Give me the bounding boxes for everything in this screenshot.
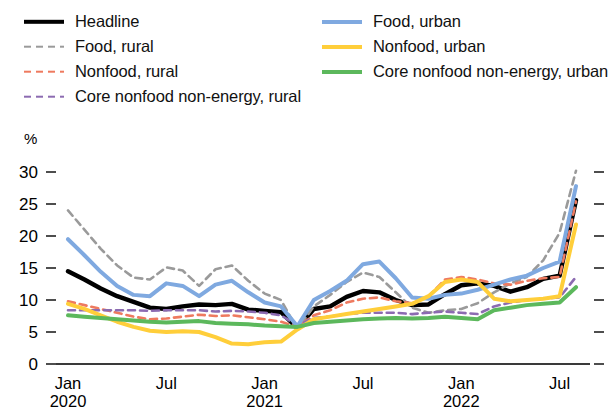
x-axis-tick-month: Jan [55,374,82,392]
plot-area: % 302520151050 Jan2020JulJan2021JulJan20… [0,112,608,417]
legend-entry: Nonfood, rural [24,60,324,83]
x-axis-tick-month: Jul [549,374,570,392]
x-axis-tick-label: Jul [549,374,570,392]
legend-entry: Food, urban [322,10,608,33]
chart-legend: HeadlineFood, ruralNonfood, ruralCore no… [0,0,608,112]
y-axis-tick-label: 0 [4,356,38,373]
legend-entry-label: Nonfood, urban [373,38,485,55]
legend-entry-label: Nonfood, rural [75,63,178,80]
legend-column-left: HeadlineFood, ruralNonfood, ruralCore no… [24,10,324,110]
legend-entry-label: Headline [75,13,139,30]
legend-swatch-icon [24,42,64,52]
legend-entry: Core nonfood non-energy, rural [24,85,324,108]
x-axis-tick-year: 2021 [246,392,283,410]
x-axis-tick-month: Jul [156,374,177,392]
legend-column-right: Food, urbanNonfood, urbanCore nonfood no… [322,10,608,85]
legend-entry: Core nonfood non-energy, urban [322,60,608,83]
legend-entry: Headline [24,10,324,33]
x-axis-tick-label: Jul [156,374,177,392]
legend-swatch-icon [322,67,362,77]
legend-swatch-icon [322,42,362,52]
legend-entry-label: Core nonfood non-energy, rural [75,88,301,105]
y-axis-tick-label: 5 [4,324,38,341]
legend-entry-label: Food, urban [373,13,461,30]
x-axis-tick-month: Jan [448,374,475,392]
x-axis-tick-label: Jul [352,374,373,392]
legend-entry-label: Food, rural [75,38,154,55]
x-axis-tick-month: Jan [251,374,278,392]
legend-entry: Food, rural [24,35,324,58]
legend-swatch-icon [24,92,64,102]
legend-entry: Nonfood, urban [322,35,608,58]
y-axis-tick-label: 10 [4,292,38,309]
y-axis-tick-label: 20 [4,228,38,245]
legend-swatch-icon [24,17,64,27]
x-axis-tick-label: Jan2021 [246,374,283,411]
inflation-line-chart: HeadlineFood, ruralNonfood, ruralCore no… [0,0,608,417]
x-axis-tick-year: 2020 [50,392,87,410]
legend-swatch-icon [24,67,64,77]
legend-swatch-icon [322,17,362,27]
x-axis-tick-label: Jan2022 [443,374,480,411]
legend-entry-label: Core nonfood non-energy, urban [373,63,608,80]
y-axis-tick-label: 15 [4,260,38,277]
plot-svg [0,112,608,417]
x-axis-tick-month: Jul [352,374,373,392]
y-axis-tick-label: 30 [4,164,38,181]
x-axis-tick-year: 2022 [443,392,480,410]
x-axis-tick-label: Jan2020 [50,374,87,411]
y-axis-tick-label: 25 [4,196,38,213]
